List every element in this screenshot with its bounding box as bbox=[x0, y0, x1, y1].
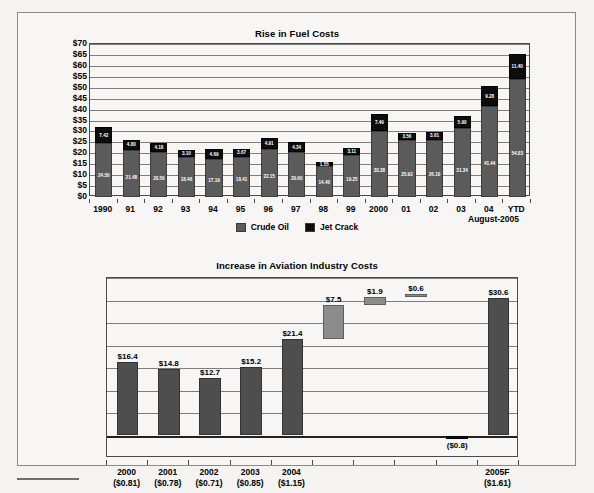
chart1-bar-label-crude-oil: 31.34 bbox=[455, 169, 470, 174]
chart1-bar-jet-crack: 7.42 bbox=[95, 127, 112, 143]
chart2-gridline bbox=[107, 301, 517, 302]
footer-rule bbox=[17, 478, 79, 480]
chart1-bar-label-jet-crack: 1.55 bbox=[317, 163, 332, 168]
chart2-x-tick-mark bbox=[394, 460, 395, 465]
chart2-x-tick-mark bbox=[106, 460, 107, 465]
chart1-bar-label-jet-crack: 7.49 bbox=[372, 121, 387, 126]
chart1-bar-label-crude-oil: 18.46 bbox=[179, 178, 194, 183]
chart2-x-tick-value: ($0.81) bbox=[113, 478, 140, 489]
legend-label-crude-oil: Crude Oil bbox=[251, 222, 289, 232]
chart1-x-tick-label: 02 bbox=[429, 204, 438, 214]
chart2-x-axis: 2000($0.81)2001($0.78)2002($0.71)2003($0… bbox=[106, 460, 518, 493]
chart2-bar-label: $1.9 bbox=[367, 287, 383, 296]
chart1-bar-jet-crack: 4.91 bbox=[261, 138, 278, 149]
chart2-gridline bbox=[107, 323, 517, 324]
chart2-x-tick-mark bbox=[436, 460, 437, 465]
legend-swatch-jet-crack bbox=[305, 223, 315, 232]
chart1-gridline bbox=[90, 55, 529, 56]
chart2-x-tick-year: 2002 bbox=[200, 467, 219, 477]
chart1-bar-jet-crack: 4.80 bbox=[123, 140, 140, 150]
chart2-bar bbox=[405, 294, 426, 297]
chart1-bar-jet-crack: 7.49 bbox=[371, 114, 388, 130]
chart1-x-tick-label: 96 bbox=[263, 204, 272, 214]
chart1-bar-label-jet-crack: 5.90 bbox=[455, 121, 470, 126]
chart1-y-tick-label: $45 bbox=[73, 93, 87, 103]
chart1-bar-jet-crack: 4.34 bbox=[288, 142, 305, 151]
chart1-bar-crude-oil: 54.03 bbox=[509, 79, 526, 197]
legend-label-jet-crack: Jet Crack bbox=[320, 222, 358, 232]
chart1-bar-label-jet-crack: 7.42 bbox=[96, 134, 111, 139]
chart2-bar-label: $30.6 bbox=[488, 288, 508, 297]
chart1-bar-crude-oil: 25.92 bbox=[398, 140, 415, 197]
chart2-x-tick-mark bbox=[271, 460, 272, 465]
chart2-x-tick-year: 2003 bbox=[241, 467, 260, 477]
chart1-bar-jet-crack: 4.18 bbox=[150, 143, 167, 152]
chart1-gridline bbox=[90, 66, 529, 67]
chart1-y-tick-label: $35 bbox=[73, 115, 87, 125]
chart2-plot-area: $16.4$14.8$12.7$15.2$21.4$7.5$1.9$0.6($0… bbox=[106, 277, 518, 457]
chart2-x-tick-mark bbox=[477, 460, 478, 465]
chart2-bar-label: $0.6 bbox=[408, 284, 424, 293]
chart1-y-tick-label: $50 bbox=[73, 82, 87, 92]
chart2-bar-label: $21.4 bbox=[282, 329, 302, 338]
chart1-bar-crude-oil: 31.34 bbox=[454, 128, 471, 197]
chart1-x-tick-label: 99 bbox=[346, 204, 355, 214]
chart1-x-tick-mark bbox=[420, 199, 421, 203]
chart1-bar-label-crude-oil: 41.44 bbox=[482, 162, 497, 167]
chart1-x-tick-label: 97 bbox=[291, 204, 300, 214]
chart1-y-tick-label: $25 bbox=[73, 136, 87, 146]
chart1-bar-label-jet-crack: 3.11 bbox=[344, 150, 359, 155]
chart1-gridline bbox=[90, 99, 529, 100]
chart2-bar-label: $14.8 bbox=[159, 359, 179, 368]
chart2-x-tick-year: 2004 bbox=[282, 467, 301, 477]
chart2-bar bbox=[240, 367, 261, 435]
chart1-gridline bbox=[90, 77, 529, 78]
chart1-bar-label-jet-crack: 4.18 bbox=[151, 146, 166, 151]
chart2-x-tick-mark bbox=[230, 460, 231, 465]
chart2-bar bbox=[117, 362, 138, 436]
chart1-bar-label-crude-oil: 20.60 bbox=[289, 177, 304, 182]
chart1-legend: Crude Oil Jet Crack bbox=[0, 222, 594, 232]
chart1-bar-jet-crack: 3.11 bbox=[343, 148, 360, 155]
chart1-bar-crude-oil: 19.25 bbox=[343, 155, 360, 197]
chart2-x-tick-year: 2005F bbox=[485, 467, 509, 477]
chart1-x-tick-label: YTD bbox=[508, 204, 525, 214]
chart1-bar-label-crude-oil: 22.15 bbox=[262, 175, 277, 180]
chart1-x-tick-mark bbox=[337, 199, 338, 203]
chart1-bar-label-crude-oil: 21.48 bbox=[124, 176, 139, 181]
chart1-bar-jet-crack: 1.55 bbox=[316, 162, 333, 165]
chart2-x-tick-label: 2001($0.78) bbox=[154, 467, 181, 488]
chart1-x-tick-label: 93 bbox=[181, 204, 190, 214]
chart1-x-tick-mark bbox=[89, 199, 90, 203]
chart1-x-tick-mark bbox=[144, 199, 145, 203]
chart1-x-tick-label: 94 bbox=[208, 204, 217, 214]
chart2-x-tick-value: ($0.78) bbox=[154, 478, 181, 489]
chart2-bar bbox=[488, 298, 509, 436]
chart2-x-tick-mark bbox=[312, 460, 313, 465]
chart1-x-tick-mark bbox=[365, 199, 366, 203]
chart1-bar-label-crude-oil: 14.40 bbox=[317, 181, 332, 186]
chart1-bar-crude-oil: 14.40 bbox=[316, 166, 333, 197]
chart2-x-tick-label: 2002($0.71) bbox=[196, 467, 223, 488]
chart1-bar-label-jet-crack: 3.61 bbox=[427, 134, 442, 139]
chart1-plot-area: 24.507.4221.484.8020.564.1818.463.1017.1… bbox=[89, 43, 530, 196]
chart1-y-tick-label: $30 bbox=[73, 125, 87, 135]
chart1-bar-crude-oil: 21.48 bbox=[123, 150, 140, 197]
chart1-bar-label-crude-oil: 54.03 bbox=[510, 152, 525, 157]
chart1-bar-jet-crack: 4.69 bbox=[205, 149, 222, 159]
chart2-x-tick-label: 2000($0.81) bbox=[113, 467, 140, 488]
chart1-bar-label-jet-crack: 4.69 bbox=[206, 153, 221, 158]
chart1-x-tick-label: 03 bbox=[456, 204, 465, 214]
chart1-x-tick-label: 95 bbox=[236, 204, 245, 214]
chart2-x-tick-mark bbox=[353, 460, 354, 465]
chart2-x-tick-mark bbox=[147, 460, 148, 465]
legend-item-jet-crack: Jet Crack bbox=[305, 222, 358, 232]
chart2-bar bbox=[199, 378, 220, 435]
chart1-x-tick-label: 98 bbox=[319, 204, 328, 214]
chart2-x-tick-label: 2005F($1.61) bbox=[484, 467, 511, 488]
chart1-gridline bbox=[90, 88, 529, 89]
chart1-bar-crude-oil: 20.56 bbox=[150, 152, 167, 197]
chart2-x-tick-value: ($1.15) bbox=[278, 478, 305, 489]
chart2-x-tick-value: ($1.61) bbox=[484, 478, 511, 489]
chart2-bar bbox=[323, 305, 344, 339]
